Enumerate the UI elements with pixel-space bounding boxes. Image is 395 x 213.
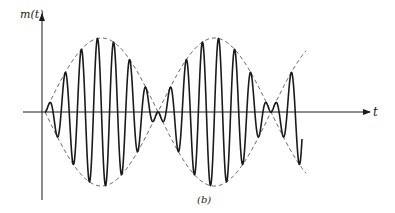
y-axis-label: m(t) (20, 8, 43, 21)
modulated-waveform-figure (0, 0, 395, 213)
figure-caption: (b) (197, 194, 211, 205)
x-axis-label: t (373, 105, 378, 119)
